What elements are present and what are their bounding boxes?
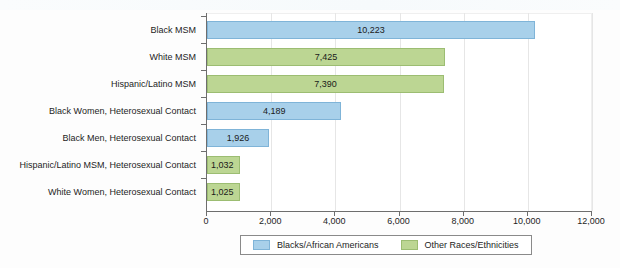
bar-value-label: 1,025: [207, 183, 244, 201]
category-label: White Women, Heterosexual Contact: [48, 183, 196, 201]
bar-value-label: 1,032: [207, 156, 244, 174]
scan-artifact: [0, 0, 620, 10]
legend-label: Other Races/Ethnicities: [425, 240, 519, 250]
x-axis-tick-label: 4,000: [323, 216, 346, 226]
gridline: [592, 13, 593, 211]
bar-row: 7,390: [207, 75, 592, 93]
bar-value-label: 4,189: [207, 102, 341, 120]
legend-item[interactable]: Other Races/Ethnicities: [401, 236, 519, 254]
category-label: Black MSM: [150, 21, 196, 39]
x-axis-tick-label: 6,000: [387, 216, 410, 226]
bar-value-label: 7,390: [207, 75, 444, 93]
category-label: Hispanic/Latino MSM: [111, 75, 196, 93]
bar-row: 1,926: [207, 129, 592, 147]
x-axis-tick-label: 12,000: [577, 216, 605, 226]
x-axis-tick-label: 10,000: [513, 216, 541, 226]
chart-legend: Blacks/African AmericansOther Races/Ethn…: [240, 235, 532, 255]
legend-item[interactable]: Blacks/African Americans: [253, 236, 379, 254]
category-label: White MSM: [149, 48, 196, 66]
bar-value-label: 10,223: [207, 21, 535, 39]
bar-value-label: 7,425: [207, 48, 445, 66]
category-label: Black Men, Heterosexual Contact: [62, 129, 196, 147]
x-axis-tick-label: 0: [203, 216, 208, 226]
category-label: Black Women, Heterosexual Contact: [49, 102, 196, 120]
chart-page: Black MSMWhite MSMHispanic/Latino MSMBla…: [0, 0, 620, 268]
bar-row: 10,223: [207, 21, 592, 39]
legend-swatch-icon: [253, 240, 270, 250]
plot-top-border: [207, 13, 592, 14]
plot-area: 10,2237,4257,3904,1891,9261,0321,025: [206, 13, 592, 212]
category-label: Hispanic/Latino MSM, Heterosexual Contac…: [19, 156, 196, 174]
bar-row: 1,032: [207, 156, 592, 174]
bar-value-label: 1,926: [207, 129, 269, 147]
bar-row: 1,025: [207, 183, 592, 201]
legend-swatch-icon: [401, 240, 418, 250]
bar-row: 7,425: [207, 48, 592, 66]
x-axis-tick-label: 8,000: [451, 216, 474, 226]
legend-label: Blacks/African Americans: [277, 240, 379, 250]
x-axis-tick-label: 2,000: [259, 216, 282, 226]
bar-row: 4,189: [207, 102, 592, 120]
